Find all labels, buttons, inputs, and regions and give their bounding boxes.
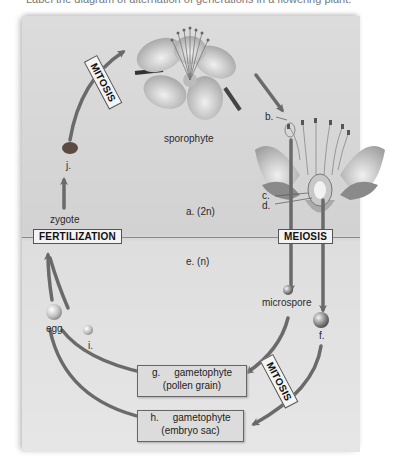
label-j: j.: [66, 160, 71, 171]
microspore-label: microspore: [262, 297, 311, 308]
egg-cell: [46, 304, 62, 320]
zygote-label: zygote: [50, 214, 79, 225]
gametophyte-embryo-sac-letter: h.: [150, 411, 158, 424]
label-e: e. (n): [186, 256, 209, 267]
gametophyte-embryo-sac-subtitle: (embryo sac): [138, 424, 243, 437]
gametophyte-pollen-subtitle: (pollen grain): [138, 379, 246, 392]
zygote-cell: [62, 142, 78, 154]
fertilization-label: FERTILIZATION: [33, 229, 122, 244]
label-d: d.: [262, 200, 270, 211]
gametophyte-pollen-letter: g.: [152, 366, 160, 379]
flower-cross-section: [255, 118, 385, 213]
label-i: i.: [88, 340, 93, 351]
gametophyte-pollen-title: gametophyte: [174, 366, 232, 379]
gametophyte-embryo-sac-box: h. gametophyte (embryo sac): [137, 410, 244, 442]
microspore-cell: [283, 285, 293, 295]
label-f: f.: [319, 330, 325, 341]
meiosis-label: MEIOSIS: [278, 229, 333, 244]
egg-label: egg: [46, 323, 63, 334]
megaspore-cell: [313, 312, 329, 328]
label-a: a. (2n): [186, 206, 215, 217]
label-b: b.: [265, 111, 273, 122]
sporophyte-flower: [132, 27, 241, 121]
gametophyte-pollen-box: g. gametophyte (pollen grain): [137, 365, 247, 397]
sperm-cell: [83, 325, 93, 335]
sporophyte-label: sporophyte: [164, 133, 213, 144]
gametophyte-embryo-sac-title: gametophyte: [173, 411, 231, 424]
